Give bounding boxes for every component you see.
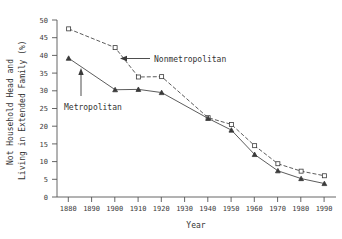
y-axis-label-line2: Living in Extended Family (%) (18, 40, 27, 180)
data-point (229, 122, 233, 126)
x-tick-label: 1920 (153, 205, 170, 213)
x-tick-label: 1950 (223, 205, 240, 213)
annotation-nonmetropolitan: Nonmetropolitan (120, 55, 226, 64)
x-tick-label: 1900 (106, 205, 123, 213)
y-axis-tick-labels: 0 5 10 15 20 25 30 35 40 45 50 (40, 17, 48, 202)
y-tick-label: 35 (40, 70, 48, 78)
y-tick-label: 5 (44, 176, 48, 184)
data-point (66, 56, 71, 60)
series-line (69, 58, 325, 183)
x-axis-label: Year (186, 221, 205, 230)
data-point (253, 144, 257, 148)
y-axis-ticks (52, 20, 57, 197)
y-axis-label-line1: Not Household Head and (6, 59, 15, 165)
data-point (113, 46, 117, 50)
x-tick-label: 1970 (269, 205, 286, 213)
data-point (136, 75, 140, 79)
x-tick-label: 1990 (316, 205, 333, 213)
x-axis-ticks (68, 197, 324, 202)
x-tick-label: 1930 (176, 205, 193, 213)
annotation-nonmetropolitan-label: Nonmetropolitan (154, 55, 226, 64)
data-point (299, 169, 303, 173)
x-axis-tick-labels: 1880 1890 1900 1910 1920 1930 1940 1950 … (60, 205, 333, 213)
data-point (322, 174, 326, 178)
y-tick-label: 25 (40, 105, 48, 113)
y-tick-label: 10 (40, 158, 48, 166)
chart-figure: Not Household Head and Living in Extende… (0, 0, 342, 239)
data-point (275, 168, 280, 172)
y-tick-label: 30 (40, 87, 48, 95)
x-tick-label: 1890 (83, 205, 100, 213)
x-tick-label: 1880 (60, 205, 77, 213)
y-tick-label: 50 (40, 17, 48, 25)
x-tick-label: 1960 (246, 205, 263, 213)
line-chart: Not Household Head and Living in Extende… (0, 0, 342, 239)
data-point (276, 162, 280, 166)
y-tick-label: 45 (40, 34, 48, 42)
data-point (160, 75, 164, 79)
data-point (67, 27, 71, 31)
x-tick-label: 1980 (292, 205, 309, 213)
y-tick-label: 40 (40, 52, 48, 60)
y-tick-label: 15 (40, 141, 48, 149)
x-tick-label: 1910 (130, 205, 147, 213)
y-tick-label: 20 (40, 123, 48, 131)
series-metropolitan (66, 56, 327, 186)
y-tick-label: 0 (44, 194, 48, 202)
annotation-metropolitan-label: Metropolitan (64, 103, 122, 112)
x-tick-label: 1940 (199, 205, 216, 213)
data-point (229, 128, 234, 132)
